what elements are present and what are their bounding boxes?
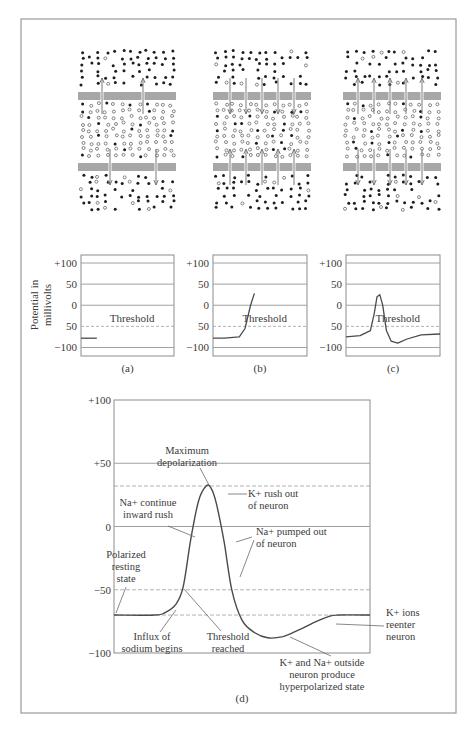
ion-filled: [163, 195, 166, 198]
ion-filled: [138, 70, 141, 73]
ion-open: [291, 123, 294, 126]
ion-open: [298, 104, 301, 107]
ion-open: [305, 155, 308, 158]
ion-open: [153, 109, 156, 112]
y-tick-label: 0: [106, 521, 112, 533]
ion-filled: [171, 76, 174, 79]
ion-open: [305, 141, 308, 144]
ion-open: [216, 135, 219, 138]
ion-filled: [275, 81, 278, 84]
ion-open: [232, 135, 235, 138]
ion-open: [352, 136, 355, 139]
ion-filled: [131, 75, 134, 78]
ion-open: [148, 121, 151, 124]
ion-open: [426, 117, 429, 120]
ion-open: [162, 122, 165, 125]
ion-filled: [372, 208, 375, 211]
ion-open: [267, 123, 270, 126]
ion-filled: [386, 188, 389, 191]
ion-open: [223, 122, 226, 125]
ion-filled: [216, 57, 219, 60]
chart-caption: (c): [387, 362, 400, 375]
ion-filled: [233, 82, 236, 85]
ion-open: [288, 147, 291, 150]
ion-filled: [249, 206, 252, 209]
ion-filled: [114, 70, 117, 73]
y-tick-label: 0: [337, 299, 343, 311]
ion-filled: [386, 153, 389, 156]
ion-filled: [410, 206, 413, 209]
ion-open: [146, 140, 149, 143]
ion-filled: [225, 55, 228, 58]
annotation-text: Threshold: [207, 631, 250, 642]
ion-filled: [355, 61, 358, 64]
ion-filled: [161, 63, 164, 66]
annotation-maximum-depolarization: Maximumdepolarization: [157, 445, 218, 485]
ion-filled: [173, 199, 176, 202]
ion-filled: [434, 83, 437, 86]
ion-open: [215, 123, 218, 126]
ion-filled: [153, 206, 156, 209]
ion-filled: [255, 189, 258, 192]
ion-open: [282, 104, 285, 107]
ion-filled: [369, 194, 372, 197]
ion-filled: [170, 206, 173, 209]
ion-open: [437, 153, 440, 156]
ion-filled: [96, 189, 99, 192]
ion-filled: [304, 199, 307, 202]
ion-filled: [387, 50, 390, 53]
ion-filled: [289, 56, 292, 59]
ion-filled: [291, 207, 294, 210]
ion-open: [396, 195, 399, 198]
ion-filled: [363, 200, 366, 203]
action-potential-chart-d: +100+500−50−100MaximumdepolarizationK+ r…: [88, 394, 419, 705]
ion-filled: [137, 196, 140, 199]
ion-filled: [223, 195, 226, 198]
ion-filled: [385, 56, 388, 59]
y-tick-label: −100: [186, 341, 209, 353]
ion-filled: [171, 180, 174, 183]
ion-filled: [242, 68, 245, 71]
ion-open: [156, 129, 159, 132]
ion-open: [434, 201, 437, 204]
ion-filled: [146, 76, 149, 79]
ion-filled: [104, 77, 107, 80]
ion-filled: [121, 182, 124, 185]
annotation-text: hyperpolarized state: [280, 681, 365, 692]
ion-filled: [216, 156, 219, 159]
ion-open: [105, 135, 108, 138]
ion-open: [120, 117, 123, 120]
ion-open: [249, 103, 252, 106]
annotation-k-rush-out-of-neuron: K+ rush outof neuron: [228, 488, 298, 511]
ion-open: [89, 149, 92, 152]
ion-filled: [216, 115, 219, 118]
ion-filled: [370, 130, 373, 133]
ion-open: [346, 147, 349, 150]
ion-filled: [368, 63, 371, 66]
ion-filled: [81, 111, 84, 114]
ion-open: [145, 116, 148, 119]
ion-open: [376, 134, 379, 137]
ion-filled: [153, 51, 156, 54]
ion-filled: [378, 83, 381, 86]
ion-filled: [231, 76, 234, 79]
ion-filled: [104, 200, 107, 203]
potential-curve: [213, 293, 254, 338]
ion-open: [97, 154, 100, 157]
ion-filled: [214, 51, 217, 54]
ion-filled: [96, 74, 99, 77]
ion-open: [231, 155, 234, 158]
ion-open: [256, 108, 259, 111]
ion-filled: [172, 57, 175, 60]
annotation-influx-of-sodium-begins: Influx ofsodium begins: [122, 610, 183, 654]
annotation-pointer-line: [168, 526, 195, 537]
ion-open: [429, 104, 432, 107]
ion-filled: [344, 76, 347, 79]
ion-open: [241, 202, 244, 205]
ion-open: [139, 134, 142, 137]
ion-open: [386, 110, 389, 113]
ion-filled: [255, 142, 258, 145]
ion-filled: [264, 51, 267, 54]
ion-filled: [402, 102, 405, 105]
ion-open: [233, 115, 236, 118]
